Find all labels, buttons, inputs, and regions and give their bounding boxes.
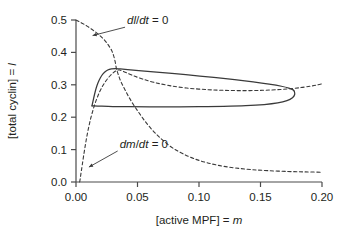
x-axis-title-symbol: m: [233, 214, 243, 226]
x-tick-label-0: 0.00: [65, 191, 87, 203]
y-tick-label-3: 0.3: [51, 79, 67, 91]
annotation-dl-dt: dl/dt = 0: [127, 14, 168, 26]
annot-dm-v1: m: [126, 138, 136, 150]
x-tick-label-2: 0.10: [188, 191, 210, 203]
annotation-dm-dt: dm/dt = 0: [120, 138, 168, 150]
y-tick-label-4: 0.4: [51, 46, 68, 58]
y-axis-title: [total cyclin] = l: [6, 63, 18, 139]
phase-plane-figure: 0.00.10.20.30.40.5 0.000.050.100.150.20 …: [0, 0, 344, 239]
y-tick-label-5: 0.5: [51, 14, 67, 26]
x-tick-label-3: 0.15: [249, 191, 271, 203]
y-tick-label-1: 0.1: [51, 144, 67, 156]
y-axis-title-symbol: l: [6, 63, 18, 66]
x-tick-label-4: 0.20: [311, 191, 333, 203]
chart-canvas: 0.00.10.20.30.40.5 0.000.050.100.150.20 …: [0, 0, 344, 239]
x-axis-title: [active MPF] = m: [156, 214, 243, 226]
x-axis-title-bracket: [active MPF] =: [156, 214, 233, 226]
y-tick-label-2: 0.2: [51, 111, 67, 123]
x-tick-label-1: 0.05: [126, 191, 148, 203]
y-axis-title-bracket: [total cyclin] =: [6, 66, 18, 139]
annot-dm-eq: = 0: [148, 138, 168, 150]
y-tick-label-0: 0.0: [51, 176, 67, 188]
annot-dl-eq: = 0: [149, 14, 169, 26]
